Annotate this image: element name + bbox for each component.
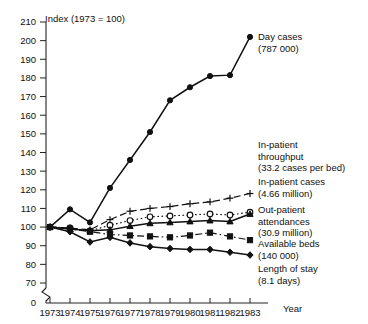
series-label-2: (4.66 million) [258,188,312,199]
series-labels-group: Day cases(787 000)In-patientthroughput(3… [258,31,345,286]
series-marker-0 [147,129,152,134]
x-axis-ticks: 1973197419751976197719781979198019811982… [39,298,260,318]
series-label-0: (787 000) [258,43,299,54]
series-label-4: Available beds [258,238,320,249]
y-axis-ticks: 7080901001101201301401501601701801902002… [20,16,46,308]
x-tick-label: 1978 [139,307,160,318]
x-tick-label: 1977 [119,307,140,318]
y-tick-label: 110 [21,203,36,214]
series-marker-4 [187,233,192,238]
series-marker-0 [187,85,192,90]
x-tick-label: 1980 [179,307,200,318]
series-label-1: In-patient [258,139,298,150]
y-tick-label-zero: 0 [31,297,36,308]
y-tick-label: 70 [25,277,36,288]
series-marker-1 [167,203,174,210]
series-marker-4 [87,229,92,234]
series-marker-2 [227,212,233,218]
x-tick-label: 1983 [239,307,260,318]
series-label-1: throughput [258,151,304,162]
series-marker-5 [207,246,213,253]
y-tick-label: 160 [20,110,36,121]
axis-lines [42,22,268,303]
series-marker-4 [167,235,172,240]
series-marker-0 [247,34,252,39]
y-tick-label: 120 [20,184,36,195]
y-tick-label: 170 [20,91,36,102]
series-marker-4 [247,238,252,243]
series-marker-0 [127,157,132,162]
series-label-0: Day cases [258,31,303,42]
series-marker-5 [87,239,93,246]
chart-title: Index (1973 = 100) [45,13,125,24]
series-label-3: attendances [258,216,310,227]
series-marker-0 [227,73,232,78]
series-marker-2 [147,214,153,220]
x-tick-label: 1976 [99,307,120,318]
chart-container: 7080901001101201301401501601701801902002… [0,0,368,324]
series-markers-group [47,34,254,258]
x-tick-label: 1974 [59,307,80,318]
series-marker-1 [127,208,134,215]
series-label-5: Length of stay [258,263,318,274]
x-tick-label: 1973 [39,307,60,318]
series-label-3: (30.9 million) [258,227,312,238]
x-tick-label: 1975 [79,307,100,318]
series-marker-4 [127,233,132,238]
series-marker-2 [167,213,173,219]
series-label-1: (33.2 cases per bed) [258,162,345,173]
series-marker-0 [207,73,212,78]
y-tick-label: 80 [25,259,36,270]
series-marker-0 [87,220,92,225]
series-marker-4 [147,234,152,239]
y-tick-label: 180 [20,72,36,83]
series-label-2: In-patient cases [258,176,325,187]
x-tick-label: 1982 [219,307,240,318]
series-marker-4 [207,230,212,235]
y-tick-label: 210 [20,16,36,27]
series-marker-4 [227,234,232,239]
series-line-5 [50,227,250,255]
series-label-3: Out-patient [258,204,305,215]
line-chart: 7080901001101201301401501601701801902002… [0,0,368,324]
series-marker-5 [227,249,233,256]
series-marker-1 [147,205,154,212]
series-label-4: (140 000) [258,250,299,261]
y-tick-label: 150 [20,128,36,139]
y-tick-label: 100 [20,221,36,232]
series-marker-0 [107,185,112,190]
y-tick-label: 190 [20,54,36,65]
series-marker-5 [147,243,153,250]
series-marker-1 [247,190,254,197]
series-marker-1 [207,199,214,206]
series-marker-2 [187,212,193,218]
series-marker-0 [167,98,172,103]
y-tick-label: 140 [20,147,36,158]
series-label-5: (8.1 days) [258,275,300,286]
x-tick-label: 1979 [159,307,180,318]
series-marker-5 [247,252,253,259]
series-marker-5 [187,246,193,253]
series-marker-2 [207,211,213,217]
y-tick-label: 200 [20,35,36,46]
y-tick-label: 90 [25,240,36,251]
x-axis-title: Year [283,303,302,314]
series-marker-5 [127,240,133,247]
series-marker-1 [187,200,194,207]
series-marker-1 [227,195,234,202]
series-marker-5 [167,245,173,252]
y-tick-label: 130 [20,166,36,177]
series-marker-0 [67,207,72,212]
x-tick-label: 1981 [199,307,220,318]
